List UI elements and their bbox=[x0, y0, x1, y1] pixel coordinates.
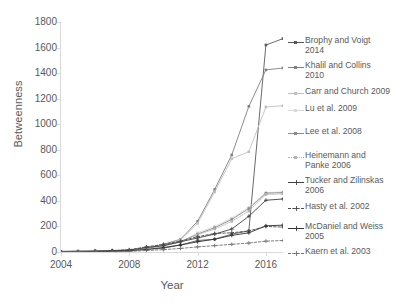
legend-item[interactable]: Kaern et al. 2003 bbox=[288, 247, 370, 258]
legend-color-swatch bbox=[288, 106, 304, 115]
x-tick-label: 2004 bbox=[41, 259, 81, 271]
x-tick-label: 2008 bbox=[109, 259, 149, 271]
legend-label: Hasty et al. 2002 bbox=[304, 202, 370, 212]
x-tick-mark bbox=[266, 252, 267, 256]
x-axis-title: Year bbox=[61, 279, 283, 291]
data-point-marker bbox=[248, 105, 251, 108]
data-point-marker bbox=[281, 223, 283, 227]
y-tick-label: 1400 bbox=[5, 68, 57, 78]
chart-legend: Brophy and Voigt 2014Khalil and Collins … bbox=[288, 28, 404, 278]
legend-label: Heinemann and Panke 2006 bbox=[304, 151, 366, 170]
series-line bbox=[61, 39, 283, 252]
data-point-marker bbox=[281, 239, 283, 243]
y-tick-label: 200 bbox=[5, 221, 57, 231]
legend-item[interactable]: Lu et al. 2009 bbox=[288, 104, 357, 115]
x-tick-mark bbox=[129, 252, 130, 256]
data-point-marker bbox=[282, 67, 283, 70]
y-tick-label: 1800 bbox=[5, 17, 57, 27]
data-point-marker bbox=[230, 154, 233, 157]
data-point-marker bbox=[179, 247, 183, 251]
legend-label: McDaniel and Weiss 2005 bbox=[304, 222, 383, 241]
legend-item[interactable]: Tucker and Zilinskas 2006 bbox=[288, 176, 384, 195]
data-point-marker bbox=[265, 69, 268, 72]
data-point-marker bbox=[248, 150, 251, 153]
x-tick-label: 2016 bbox=[246, 259, 286, 271]
x-axis-line bbox=[61, 252, 283, 253]
data-point-marker bbox=[230, 157, 233, 160]
legend-label: Lu et al. 2009 bbox=[304, 104, 357, 114]
series-line bbox=[61, 226, 283, 252]
x-tick-mark bbox=[198, 252, 199, 256]
legend-color-swatch bbox=[288, 153, 304, 162]
legend-label: Brophy and Voigt 2014 bbox=[304, 36, 370, 55]
legend-label: Lee et al. 2008 bbox=[304, 127, 362, 137]
data-point-marker bbox=[230, 242, 234, 246]
data-point-marker bbox=[282, 37, 283, 40]
series-lines bbox=[61, 22, 283, 252]
data-point-marker bbox=[265, 106, 268, 109]
legend-color-swatch bbox=[288, 178, 304, 187]
x-tick-label: 2012 bbox=[178, 259, 218, 271]
data-point-marker bbox=[179, 243, 183, 247]
y-tick-label: 800 bbox=[5, 145, 57, 155]
data-point-marker bbox=[248, 207, 251, 210]
legend-label: Tucker and Zilinskas 2006 bbox=[304, 176, 384, 195]
data-point-marker bbox=[213, 228, 216, 231]
x-tick-mark bbox=[61, 252, 62, 256]
legend-marker bbox=[294, 156, 297, 159]
data-point-marker bbox=[281, 197, 283, 201]
data-point-marker bbox=[196, 222, 199, 225]
data-point-marker bbox=[265, 193, 268, 196]
legend-color-swatch bbox=[288, 89, 304, 98]
data-point-marker bbox=[264, 224, 268, 228]
legend-marker bbox=[294, 226, 298, 230]
legend-label: Khalil and Collins 2010 bbox=[304, 61, 371, 80]
plot-area bbox=[61, 22, 283, 252]
legend-color-swatch bbox=[288, 129, 304, 138]
series-line bbox=[61, 225, 283, 252]
y-tick-label: 400 bbox=[5, 196, 57, 206]
data-point-marker bbox=[196, 245, 200, 249]
legend-item[interactable]: Heinemann and Panke 2006 bbox=[288, 151, 366, 170]
y-tick-label: 1000 bbox=[5, 119, 57, 129]
legend-item[interactable]: Hasty et al. 2002 bbox=[288, 202, 370, 213]
legend-marker bbox=[294, 206, 298, 210]
legend-item[interactable]: Carr and Church 2009 bbox=[288, 87, 390, 98]
legend-marker bbox=[294, 41, 297, 44]
data-point-marker bbox=[282, 193, 283, 196]
legend-marker bbox=[294, 132, 297, 135]
data-point-marker bbox=[264, 239, 268, 243]
legend-marker bbox=[294, 251, 298, 255]
legend-item[interactable]: Brophy and Voigt 2014 bbox=[288, 36, 370, 55]
y-tick-label: 1200 bbox=[5, 94, 57, 104]
data-point-marker bbox=[247, 241, 251, 245]
betweenness-line-chart: Betweenness 1800160014001200100080060040… bbox=[0, 0, 404, 305]
data-point-marker bbox=[213, 191, 216, 194]
data-point-marker bbox=[265, 44, 268, 47]
legend-color-swatch bbox=[288, 224, 304, 233]
legend-marker bbox=[294, 66, 297, 69]
legend-marker bbox=[294, 109, 297, 112]
legend-label: Carr and Church 2009 bbox=[304, 87, 390, 97]
legend-item[interactable]: Khalil and Collins 2010 bbox=[288, 61, 371, 80]
data-point-marker bbox=[248, 210, 251, 213]
legend-marker bbox=[294, 180, 298, 184]
data-point-marker bbox=[213, 244, 217, 248]
legend-marker bbox=[294, 92, 297, 95]
legend-label: Kaern et al. 2003 bbox=[304, 247, 370, 257]
legend-item[interactable]: McDaniel and Weiss 2005 bbox=[288, 222, 383, 241]
legend-color-swatch bbox=[288, 38, 304, 47]
legend-item[interactable]: Lee et al. 2008 bbox=[288, 127, 362, 138]
legend-color-swatch bbox=[288, 63, 304, 72]
data-point-marker bbox=[230, 220, 233, 223]
y-tick-label: 600 bbox=[5, 170, 57, 180]
legend-color-swatch bbox=[288, 204, 304, 213]
y-tick-label: 1600 bbox=[5, 43, 57, 53]
legend-color-swatch bbox=[288, 249, 304, 258]
data-point-marker bbox=[213, 237, 217, 241]
data-point-marker bbox=[282, 104, 283, 107]
